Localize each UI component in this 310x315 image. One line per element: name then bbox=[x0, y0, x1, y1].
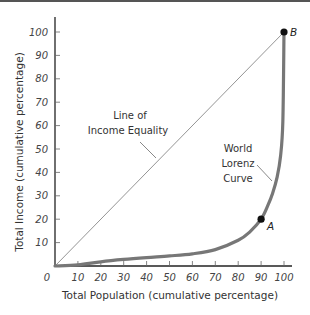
y-tick-label: 80 bbox=[35, 73, 48, 84]
y-tick-label: 30 bbox=[35, 190, 48, 201]
point-a-label: A bbox=[266, 220, 274, 232]
point-b-marker bbox=[280, 28, 287, 35]
y-tick-label: 20 bbox=[35, 214, 48, 225]
lorenz-label-line2: Lorenz bbox=[221, 158, 254, 169]
equality-label-line1: Line of bbox=[113, 110, 147, 121]
lorenz-chart: 102030405060708090100 010203040506070809… bbox=[0, 0, 310, 315]
data-points: AB bbox=[258, 26, 298, 232]
y-tick-label: 70 bbox=[35, 97, 48, 108]
x-axis-label: Total Population (cumulative percentage) bbox=[61, 289, 278, 301]
point-b-label: B bbox=[290, 26, 297, 38]
x-tick-label: 30 bbox=[117, 272, 130, 283]
y-tick-label: 10 bbox=[35, 237, 48, 248]
x-tick-label: 10 bbox=[72, 272, 85, 283]
equality-label-line2: Income Equality bbox=[88, 125, 169, 136]
lorenz-leader-line bbox=[257, 165, 272, 181]
x-tick-label: 20 bbox=[94, 272, 107, 283]
x-tick-label: 80 bbox=[232, 272, 245, 283]
y-axis-label: Total Income (cumulative percentage) bbox=[13, 52, 25, 253]
x-tick-label: 70 bbox=[209, 272, 222, 283]
y-tick-label: 100 bbox=[29, 27, 48, 38]
x-tick-label: 60 bbox=[186, 272, 199, 283]
equality-leader-line bbox=[140, 142, 156, 158]
x-tick-label: 90 bbox=[255, 272, 268, 283]
y-tick-label: 60 bbox=[35, 120, 48, 131]
y-tick-label: 40 bbox=[35, 167, 48, 178]
y-tick-label: 50 bbox=[35, 144, 48, 155]
x-tick-label: 50 bbox=[163, 272, 176, 283]
axes bbox=[55, 17, 292, 266]
x-tick-label: 100 bbox=[274, 272, 293, 283]
point-a-marker bbox=[258, 216, 265, 223]
lorenz-label-line1: World bbox=[224, 143, 253, 154]
lorenz-label-line3: Curve bbox=[223, 173, 253, 184]
x-tick-label: 0 bbox=[44, 272, 50, 283]
y-tick-label: 90 bbox=[35, 50, 48, 61]
x-tick-label: 40 bbox=[140, 272, 153, 283]
